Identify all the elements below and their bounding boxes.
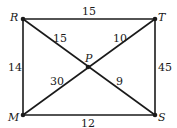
weight-M-S: 12	[81, 117, 95, 128]
vertex-P-dot	[86, 65, 91, 70]
vertex-label-P: P	[84, 52, 93, 65]
weight-R-T: 15	[82, 5, 96, 18]
vertex-label-M: M	[7, 111, 20, 124]
weight-R-M: 14	[8, 61, 22, 74]
weight-T-P: 10	[113, 32, 127, 45]
weight-S-P: 9	[116, 75, 123, 88]
vertex-label-T: T	[158, 11, 167, 24]
vertex-T-dot	[153, 17, 158, 22]
vertex-label-R: R	[9, 11, 18, 24]
vertex-label-S: S	[158, 111, 166, 124]
vertex-M-dot	[21, 113, 26, 118]
weight-R-P: 15	[53, 32, 67, 45]
vertex-S-dot	[153, 113, 158, 118]
weight-M-P: 30	[50, 75, 64, 88]
weight-T-S: 45	[158, 61, 172, 74]
weighted-graph-diagram: R T M S P 15 14 45 12 15 10 30 9	[0, 0, 177, 128]
vertex-R-dot	[21, 17, 26, 22]
